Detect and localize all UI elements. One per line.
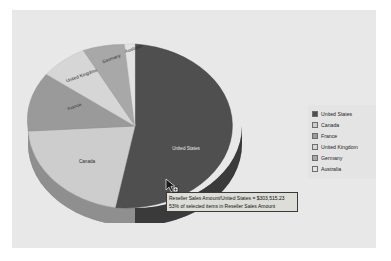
legend-swatch-icon [312,122,318,128]
tooltip-line-value: Reseller Sales Amount/United States = $3… [169,194,295,202]
legend-label: Australia [321,166,341,172]
legend-swatch-icon [312,155,318,161]
pie-chart-plot-area[interactable]: United States Canada France United Kingd… [12,10,376,248]
legend-swatch-icon [312,133,318,139]
slice-label-united-states: United States [172,146,200,151]
legend-swatch-icon [312,144,318,150]
slice-label-canada: Canada [79,159,96,164]
legend-label: United States [321,111,352,117]
legend-swatch-icon [312,111,318,117]
legend-item-germany[interactable]: Germany [312,153,373,163]
legend-item-france[interactable]: France [312,131,373,141]
legend-item-united-kingdom[interactable]: United Kingdom [312,142,373,152]
legend-label: United Kingdom [321,144,358,150]
arrow-pointer-icon [164,178,180,194]
legend-item-canada[interactable]: Canada [312,120,373,130]
data-point-tooltip: Reseller Sales Amount/United States = $3… [166,192,298,212]
chart-legend[interactable]: United States Canada France United Kingd… [308,105,376,179]
legend-label: Canada [321,122,339,128]
legend-label: France [321,133,337,139]
legend-swatch-icon [312,166,318,172]
pie-slices[interactable] [27,44,232,208]
tooltip-line-percent: 53% of selected items in Reseller Sales … [169,202,295,210]
chart-panel: United States Canada France United Kingd… [12,10,376,248]
legend-item-united-states[interactable]: United States [312,109,373,119]
legend-label: Germany [321,155,342,161]
legend-item-australia[interactable]: Australia [312,164,373,174]
